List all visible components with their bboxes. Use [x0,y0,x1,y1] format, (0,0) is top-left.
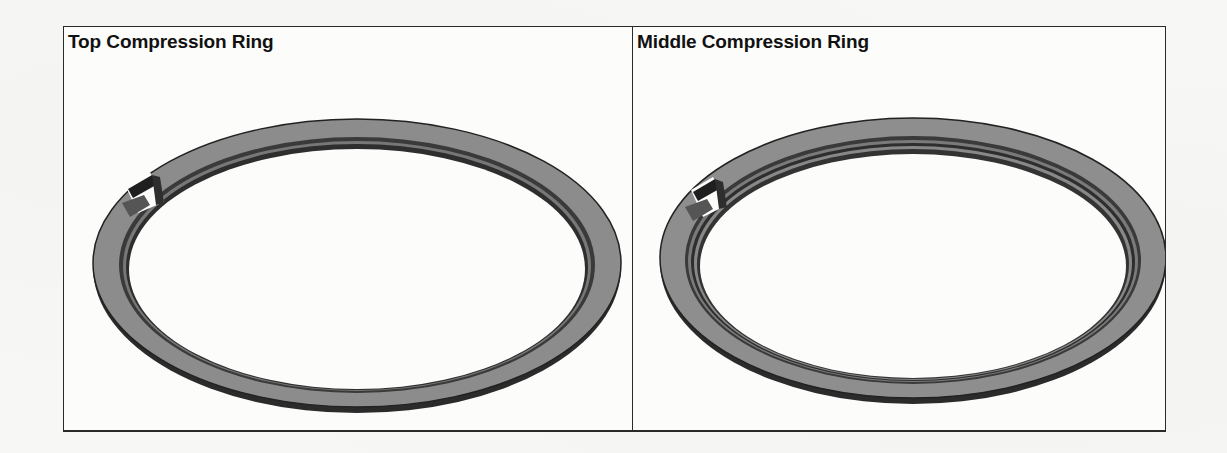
panel-middle-compression-ring: Middle Compression Ring [633,27,1165,430]
panel-top-compression-ring: Top Compression Ring [64,27,633,430]
middle-compression-ring-icon [633,27,1165,430]
ring-comparison-figure: Top Compression Ring [63,26,1166,432]
panel-title: Top Compression Ring [68,31,274,53]
panel-title: Middle Compression Ring [637,31,869,53]
top-compression-ring-icon [64,27,633,430]
